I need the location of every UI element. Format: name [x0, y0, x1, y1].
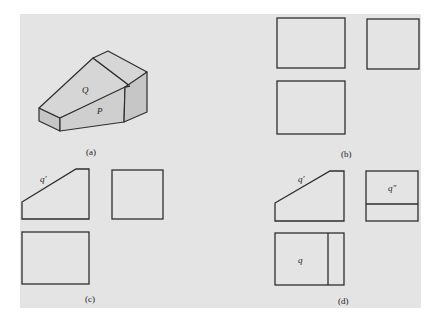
caption-c: (c) — [85, 294, 95, 304]
caption-a: (a) — [86, 147, 96, 157]
caption-b: (b) — [341, 149, 352, 159]
caption-d: (d) — [338, 296, 349, 306]
label-q-top: q — [298, 255, 303, 265]
label-q-prime: q′ — [40, 174, 48, 184]
orthographic-projection-figure: Q P (a) (b) q′ (c) q′ q″ q (d) — [0, 0, 438, 322]
label-q-prime: q′ — [298, 174, 306, 184]
label-q-double-prime: q″ — [388, 183, 397, 193]
figure-background — [20, 14, 421, 308]
face-label-q: Q — [82, 85, 89, 95]
face-label-p: P — [96, 106, 103, 116]
